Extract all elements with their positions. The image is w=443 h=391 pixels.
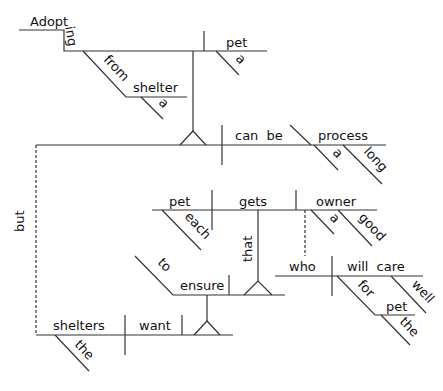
complement-divider-1	[290, 125, 311, 145]
word-process: process	[318, 128, 368, 143]
word-shelter: shelter	[133, 80, 179, 95]
word-a-pet: a	[233, 51, 249, 67]
word-for: for	[355, 277, 379, 301]
word-want: want	[139, 318, 171, 333]
word-ensure: ensure	[180, 278, 224, 293]
word-the-shelters: the	[72, 337, 98, 363]
word-who: who	[289, 259, 316, 274]
word-good: good	[356, 210, 389, 244]
word-pet-object: pet	[226, 35, 247, 50]
word-pet-prep-object: pet	[386, 299, 407, 314]
word-a-owner: a	[327, 210, 343, 226]
word-but: but	[12, 210, 27, 232]
word-shelters: shelters	[53, 318, 105, 333]
word-pet-subject: pet	[169, 194, 190, 209]
pedestal-gerund	[180, 131, 206, 145]
pedestal-noun-clause	[244, 281, 272, 295]
sentence-diagram: Adopting Adopt ing pet a from shelter a …	[0, 0, 443, 391]
word-long: long	[361, 144, 391, 175]
word-that: that	[240, 236, 255, 262]
word-each: each	[182, 209, 214, 242]
word-from: from	[101, 52, 133, 84]
word-to: to	[155, 255, 175, 275]
word-owner: owner	[316, 194, 357, 209]
word-ing: ing	[62, 25, 80, 47]
word-can-be: can be	[235, 128, 283, 143]
word-will-care: will care	[347, 259, 405, 274]
pedestal-infinitive	[194, 321, 220, 335]
word-a-process: a	[330, 145, 346, 161]
word-gets: gets	[239, 194, 267, 209]
word-well: well	[409, 277, 438, 306]
